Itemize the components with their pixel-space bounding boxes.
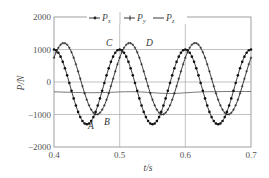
y-axis-ticks: 2000 1000 0 −1000 −2000 [28,12,52,152]
svg-text:P: P [136,13,143,23]
annotation-c: C [106,38,113,48]
y-tick-1000: 1000 [33,45,52,55]
annotation-b: B [104,117,110,127]
svg-text:P: P [165,13,172,23]
grid [54,17,251,147]
force-time-chart: 2000 1000 0 −1000 −2000 0.4 0.5 0.6 0.7 … [0,0,269,178]
y-tick-0: 0 [47,77,52,87]
svg-text:y: y [142,18,146,24]
x-tick-0.5: 0.5 [114,150,126,160]
x-axis-label: t/s [144,163,153,173]
svg-text:P: P [101,13,108,23]
x-axis-ticks: 0.4 0.5 0.6 0.7 [48,150,257,160]
y-tick-neg1000: −1000 [28,110,52,120]
svg-text:x: x [107,18,111,24]
x-tick-0.7: 0.7 [245,150,257,160]
series-py [53,42,253,116]
annotation-a: A [87,121,94,131]
y-tick-2000: 2000 [33,12,52,22]
y-axis-label: P/N [16,75,26,91]
legend: P x P y P z [87,12,187,24]
x-tick-0.4: 0.4 [48,150,60,160]
x-tick-0.6: 0.6 [180,150,192,160]
annotation-d: D [145,38,153,48]
